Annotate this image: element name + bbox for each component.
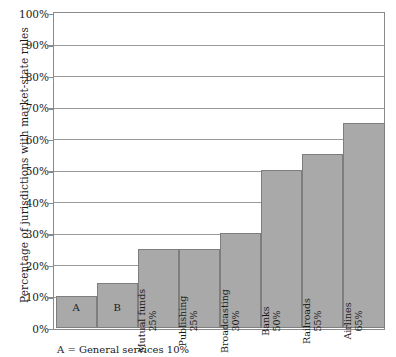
bar-label-name: Airlines [342, 302, 353, 339]
chart-footnote: A = General services 10% [57, 344, 189, 356]
bar-label-value: 30% [230, 289, 241, 353]
bar-chart: Percentage of jurisdictions with market-… [0, 0, 396, 357]
bar-label-name: Publishing [177, 295, 188, 346]
bar-label-name: Railroads [301, 298, 312, 344]
bar: A [56, 296, 97, 328]
bar-label: Railroads55% [301, 298, 323, 344]
y-tick-label: 30% [15, 229, 49, 239]
y-tick-label: 10% [15, 292, 49, 302]
bar: Publishing25% [179, 249, 220, 328]
bar-label: Banks50% [260, 306, 282, 335]
y-tick-label: 50% [15, 166, 49, 176]
bars-group: ABMutual funds25%Publishing25%Broadcasti… [56, 15, 383, 328]
y-tick-label: 90% [15, 40, 49, 50]
bar: Banks50% [261, 170, 302, 328]
y-tick-label: 20% [15, 261, 49, 271]
bar-label-name: Broadcasting [219, 289, 230, 353]
bar-label-value: 50% [271, 306, 282, 335]
y-axis-tick-labels: 100%90%80%70%60%50%40%30%20%10%0% [12, 0, 49, 357]
bar-label: Mutual funds25% [136, 288, 158, 352]
bar-label: Airlines65% [342, 302, 364, 339]
bar-label: Publishing25% [177, 295, 199, 346]
bar-label-value: 25% [188, 295, 199, 346]
bar-label-value: 65% [353, 302, 364, 339]
y-tick-label: 70% [15, 103, 49, 113]
bar: B [97, 283, 138, 327]
bar: Railroads55% [302, 154, 343, 327]
bar: Mutual funds25% [138, 249, 179, 328]
bar-label-name: A [72, 302, 79, 313]
bar: Broadcasting30% [220, 233, 261, 328]
bar-label: A [72, 302, 79, 313]
y-tick-label: 60% [15, 135, 49, 145]
y-tick-label: 100% [15, 9, 49, 19]
bar-label-value: 25% [147, 288, 158, 352]
y-tick-label: 80% [15, 72, 49, 82]
bar-label: Broadcasting30% [219, 289, 241, 353]
bar-label-name: Mutual funds [136, 288, 147, 352]
bar-label: B [114, 302, 121, 313]
bar-label-name: B [114, 302, 121, 313]
plot-area: ABMutual funds25%Publishing25%Broadcasti… [53, 12, 385, 330]
y-tick-label: 0% [15, 324, 49, 334]
bar-label-value: 55% [312, 298, 323, 344]
y-tick-label: 40% [15, 198, 49, 208]
bar-label-name: Banks [260, 306, 271, 335]
bar: Airlines65% [343, 123, 384, 328]
